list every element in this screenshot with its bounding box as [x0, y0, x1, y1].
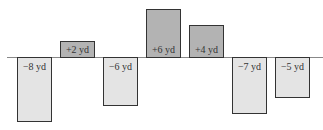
bar-value-label: −6 yd [104, 61, 137, 73]
bar-7: −5 yd [275, 57, 310, 98]
bar-1: −8 yd [17, 57, 52, 122]
bar-value-label: +6 yd [147, 44, 180, 56]
bar-value-label: −5 yd [276, 61, 309, 73]
bar-4: +6 yd [146, 9, 181, 58]
bar-2: +2 yd [60, 41, 95, 58]
bar-6: −7 yd [232, 57, 267, 114]
bar-3: −6 yd [103, 57, 138, 106]
bar-value-label: −7 yd [233, 61, 266, 73]
bar-value-label: −8 yd [18, 61, 51, 73]
bar-value-label: +4 yd [190, 44, 223, 56]
bar-value-label: +2 yd [61, 44, 94, 56]
yardage-bar-chart: −8 yd+2 yd−6 yd+6 yd+4 yd−7 yd−5 yd [0, 0, 323, 130]
bar-5: +4 yd [189, 25, 224, 58]
